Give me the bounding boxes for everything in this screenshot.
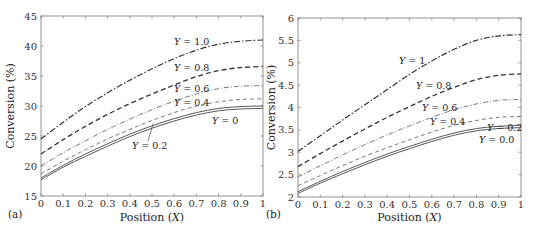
x-tick-label: 0.2 bbox=[77, 198, 93, 209]
curve-label: Y = 0.4 bbox=[174, 97, 209, 108]
y-tick-label: 3 bbox=[288, 147, 294, 158]
y-tick-label: 35 bbox=[24, 71, 37, 82]
y-tick-label: 15 bbox=[24, 191, 37, 202]
series-line bbox=[298, 74, 521, 167]
x-tick-label: 0.8 bbox=[211, 198, 227, 209]
y-tick-label: 2.5 bbox=[278, 169, 294, 180]
x-tick-label: 0.9 bbox=[233, 198, 249, 209]
x-tick-label: 0.6 bbox=[424, 199, 440, 210]
y-axis-label: Conversion (%) bbox=[4, 63, 17, 149]
x-tick-label: 0.9 bbox=[491, 199, 507, 210]
curve-label: Y = 0.8 bbox=[174, 62, 209, 73]
panel-label: (b) bbox=[266, 208, 281, 220]
x-tick-label: 0.3 bbox=[100, 198, 116, 209]
x-axis-label: Position (X) bbox=[120, 211, 184, 224]
curve-label: Y = 0.6 bbox=[422, 102, 457, 113]
curve-label: Y = 0.6 bbox=[174, 83, 209, 94]
y-tick-label: 25 bbox=[24, 131, 37, 142]
x-tick-label: 0 bbox=[295, 199, 301, 210]
y-tick-label: 40 bbox=[24, 41, 37, 52]
x-tick-label: 0.4 bbox=[379, 199, 395, 210]
curve-label: Y = 0.8 bbox=[416, 80, 451, 91]
x-tick-label: 0.6 bbox=[166, 198, 182, 209]
curve-label: Y = 0.2 bbox=[487, 122, 522, 133]
plot-frame bbox=[41, 16, 263, 196]
x-tick-label: 0.2 bbox=[335, 199, 351, 210]
curve-label: Y = 1 bbox=[399, 55, 425, 66]
chart-panel-b: 00.10.20.30.40.50.60.70.80.9122.533.544.… bbox=[265, 13, 524, 225]
y-tick-label: 2 bbox=[288, 192, 294, 203]
x-tick-label: 0.7 bbox=[188, 198, 204, 209]
x-tick-label: 0.4 bbox=[122, 198, 138, 209]
y-tick-label: 5 bbox=[288, 57, 294, 68]
x-tick-label: 0.8 bbox=[468, 199, 484, 210]
x-tick-label: 0.1 bbox=[55, 198, 71, 209]
panel-label: (a) bbox=[8, 208, 22, 220]
y-tick-label: 45 bbox=[24, 11, 37, 22]
y-tick-label: 4.5 bbox=[278, 80, 294, 91]
x-axis-label: Position (X) bbox=[377, 211, 441, 224]
curve-label: Y = 0.4 bbox=[430, 116, 465, 127]
x-tick-label: 0.1 bbox=[312, 199, 328, 210]
curve-label: Y = 0.2 bbox=[132, 140, 167, 151]
y-axis-label: Conversion (%) bbox=[265, 65, 278, 151]
x-tick-label: 0.7 bbox=[446, 199, 462, 210]
x-tick-label: 0.5 bbox=[144, 198, 160, 209]
x-tick-label: 1 bbox=[518, 199, 524, 210]
x-tick-label: 0.5 bbox=[402, 199, 418, 210]
y-tick-label: 5.5 bbox=[278, 35, 294, 46]
figure: 00.10.20.30.40.50.60.70.80.9115202530354… bbox=[0, 0, 533, 239]
chart-panel-a: 00.10.20.30.40.50.60.70.80.9115202530354… bbox=[4, 11, 266, 225]
y-tick-label: 4 bbox=[288, 102, 294, 113]
curve-label: Y = 1.0 bbox=[174, 36, 209, 47]
y-tick-label: 20 bbox=[24, 161, 37, 172]
x-tick-label: 0 bbox=[38, 198, 44, 209]
y-tick-label: 3.5 bbox=[278, 124, 294, 135]
y-tick-label: 30 bbox=[24, 101, 37, 112]
curve-label: Y = 0.0 bbox=[479, 134, 514, 145]
x-tick-label: 0.3 bbox=[357, 199, 373, 210]
y-tick-label: 6 bbox=[288, 13, 294, 24]
curve-label: Y = 0 bbox=[212, 115, 238, 126]
